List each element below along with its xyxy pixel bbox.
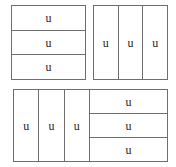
panel-top-right-columns: u u u <box>93 5 168 80</box>
unit-label: u <box>126 95 132 107</box>
unit-label: u <box>128 36 134 48</box>
unit-label: u <box>23 119 29 131</box>
partition-figure: u u u u u u u u u <box>0 0 176 167</box>
unit-label: u <box>103 36 109 48</box>
unit-label: u <box>152 36 158 48</box>
panel-top-left-rows: u u u <box>11 5 86 80</box>
unit-label: u <box>48 119 54 131</box>
unit-label: u <box>46 36 52 48</box>
partition-cell: u <box>90 137 167 161</box>
partition-cell: u <box>14 90 38 161</box>
unit-label: u <box>126 119 132 131</box>
panel-bottom-left-columns: u u u <box>14 90 89 161</box>
unit-label: u <box>126 143 132 155</box>
unit-label: u <box>46 61 52 73</box>
unit-label: u <box>74 119 80 131</box>
partition-cell: u <box>142 6 167 79</box>
partition-cell: u <box>38 90 63 161</box>
panel-bottom-right-rows: u u u <box>89 90 167 161</box>
panel-bottom-combined: u u u u u u <box>13 89 168 162</box>
partition-cell: u <box>12 54 85 79</box>
partition-cell: u <box>90 113 167 137</box>
partition-cell: u <box>94 6 118 79</box>
unit-label: u <box>46 11 52 23</box>
partition-cell: u <box>118 6 143 79</box>
partition-cell: u <box>90 90 167 113</box>
partition-cell: u <box>12 6 85 30</box>
partition-cell: u <box>12 30 85 55</box>
partition-cell: u <box>64 90 89 161</box>
